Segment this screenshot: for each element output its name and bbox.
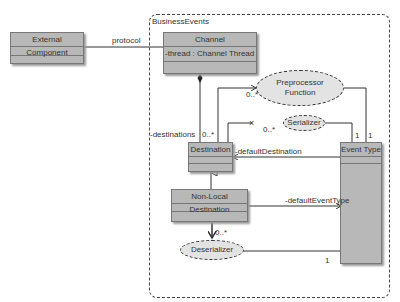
channel-class[interactable]: Channel -thread : Channel Thread [1..*] xyxy=(163,32,257,74)
event-serializer-mult-label: 1 xyxy=(355,131,359,140)
class-name: Destination xyxy=(189,143,232,157)
protocol-label: protocol xyxy=(112,36,140,45)
ellipse-label: Deserializer xyxy=(191,245,233,255)
serializer-mult-label: 0..* xyxy=(263,125,275,134)
destinations-mult-label: 0..* xyxy=(202,130,214,139)
class-name: Non-Local Destination xyxy=(172,190,247,204)
attributes-section xyxy=(189,157,232,164)
non-local-destination-class[interactable]: Non-Local Destination xyxy=(171,189,248,222)
event-deserializer-mult-label: 1 xyxy=(325,256,329,265)
attributes-section xyxy=(341,157,381,164)
event-preprocessor-mult-label: 1 xyxy=(368,131,372,140)
ellipse-line1: Preprocessor xyxy=(276,78,324,87)
class-name: External Component xyxy=(11,33,83,47)
channel-attribute: -thread : Channel Thread [1..*] xyxy=(164,47,256,62)
ellipse-label: Serializer xyxy=(287,118,320,128)
deserializer-mult-label: 0..* xyxy=(215,228,227,237)
destinations-role-label: -destinations xyxy=(150,130,195,139)
class-name: Event Type xyxy=(341,143,381,157)
preprocessor-mult-label: 0..* xyxy=(246,90,258,99)
deserializer-ellipse[interactable]: Deserializer xyxy=(180,240,244,260)
preprocessor-function-ellipse[interactable]: PreprocessorFunction xyxy=(256,70,344,106)
ellipse-line2: Function xyxy=(285,88,316,97)
serializer-ellipse[interactable]: Serializer xyxy=(283,115,325,131)
package-label: BusinessEvents xyxy=(152,17,209,26)
default-destination-label: -defaultDestination xyxy=(235,147,302,156)
default-event-type-label: -defaultEventType xyxy=(285,196,349,205)
destination-class[interactable]: Destination xyxy=(188,142,233,172)
class-name: Channel xyxy=(164,33,256,47)
external-component-class[interactable]: External Component xyxy=(10,32,84,64)
